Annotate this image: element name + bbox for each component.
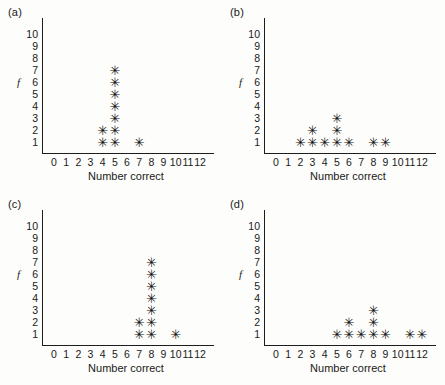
x-axis-tick-label: 2	[75, 157, 81, 168]
x-axis-title: Number correct	[88, 363, 164, 374]
x-axis-tick-label: 5	[334, 157, 340, 168]
y-axis-tick-label: 6	[254, 269, 260, 280]
y-axis-tick-label: 5	[254, 281, 260, 292]
x-axis-tick-label: 5	[112, 349, 118, 360]
y-axis-tick-label: 4	[254, 101, 260, 112]
x-axis-tick-label: 7	[358, 349, 364, 360]
plot-area: 12345678910f0123456789101112Number corre…	[264, 210, 432, 346]
y-axis-tick-label: 7	[32, 257, 38, 268]
x-axis-tick-label: 10	[170, 157, 182, 168]
x-axis-tick-label: 7	[136, 157, 142, 168]
y-axis-tick-label: 2	[254, 317, 260, 328]
y-axis-tick-label: 5	[32, 281, 38, 292]
x-axis-tick-label: 8	[148, 349, 154, 360]
x-axis-line	[264, 153, 436, 154]
y-axis-tick-label: 8	[254, 245, 260, 256]
y-axis-tick-label: 4	[32, 293, 38, 304]
y-axis-tick-label: 6	[32, 77, 38, 88]
y-axis-tick-label: 3	[32, 305, 38, 316]
data-point-marker: ✳	[344, 136, 355, 149]
y-axis-tick-label: 7	[254, 257, 260, 268]
y-axis-title: f	[17, 77, 20, 88]
plot-area: 12345678910f0123456789101112Number corre…	[264, 18, 432, 154]
x-axis-line	[42, 153, 214, 154]
x-axis-tick-label: 6	[124, 157, 130, 168]
y-axis-title: f	[239, 77, 242, 88]
figure-panel-grid: (a)12345678910f0123456789101112Number co…	[0, 0, 445, 385]
x-axis-tick-label: 3	[310, 157, 316, 168]
y-axis-tick-label: 3	[32, 113, 38, 124]
data-point-marker: ✳	[404, 328, 415, 341]
y-axis-tick-label: 1	[254, 329, 260, 340]
data-point-marker: ✳	[356, 328, 367, 341]
x-axis-title: Number correct	[310, 171, 386, 182]
y-axis-tick-label: 3	[254, 305, 260, 316]
x-axis-tick-label: 6	[346, 349, 352, 360]
data-point-marker: ✳	[97, 124, 108, 137]
y-axis-tick-label: 5	[254, 89, 260, 100]
y-axis-line	[264, 210, 265, 346]
chart-panel-a: (a)12345678910f0123456789101112Number co…	[0, 0, 222, 192]
x-axis-tick-label: 7	[358, 157, 364, 168]
x-axis-tick-label: 12	[194, 157, 206, 168]
x-axis-title: Number correct	[88, 171, 164, 182]
x-axis-tick-label: 4	[322, 349, 328, 360]
y-axis-line	[42, 210, 43, 346]
y-axis-tick-label: 3	[254, 113, 260, 124]
panel-label: (b)	[230, 6, 244, 18]
x-axis-tick-label: 10	[170, 349, 182, 360]
x-axis-tick-label: 5	[334, 349, 340, 360]
data-point-marker: ✳	[417, 328, 428, 341]
y-axis-tick-label: 1	[254, 137, 260, 148]
x-axis-tick-label: 0	[51, 157, 57, 168]
y-axis-tick-label: 10	[248, 29, 260, 40]
chart-panel-c: (c)12345678910f0123456789101112Number co…	[0, 192, 222, 385]
x-axis-tick-label: 9	[161, 157, 167, 168]
y-axis-line	[42, 18, 43, 154]
y-axis-tick-label: 7	[32, 65, 38, 76]
x-axis-tick-label: 8	[370, 157, 376, 168]
panel-label: (c)	[8, 198, 21, 210]
x-axis-tick-label: 11	[404, 349, 415, 360]
x-axis-tick-label: 4	[322, 157, 328, 168]
x-axis-tick-label: 9	[383, 349, 389, 360]
data-point-marker: ✳	[331, 112, 342, 125]
data-point-marker: ✳	[368, 136, 379, 149]
data-point-marker: ✳	[295, 136, 306, 149]
x-axis-tick-label: 6	[346, 157, 352, 168]
y-axis-tick-label: 5	[32, 89, 38, 100]
y-axis-tick-label: 1	[32, 137, 38, 148]
y-axis-title: f	[239, 269, 242, 280]
y-axis-tick-label: 7	[254, 65, 260, 76]
x-axis-tick-label: 10	[392, 349, 404, 360]
x-axis-tick-label: 0	[273, 157, 279, 168]
x-axis-tick-label: 12	[416, 157, 428, 168]
x-axis-tick-label: 9	[383, 157, 389, 168]
x-axis-tick-label: 0	[273, 349, 279, 360]
panel-label: (a)	[8, 6, 22, 18]
y-axis-tick-label: 9	[32, 41, 38, 52]
x-axis-tick-label: 11	[182, 157, 193, 168]
y-axis-title: f	[17, 269, 20, 280]
data-point-marker: ✳	[319, 136, 330, 149]
y-axis-tick-label: 6	[32, 269, 38, 280]
x-axis-tick-label: 1	[285, 349, 291, 360]
y-axis-tick-label: 4	[254, 293, 260, 304]
x-axis-tick-label: 11	[404, 157, 415, 168]
x-axis-tick-label: 12	[194, 349, 206, 360]
y-axis-tick-label: 2	[32, 125, 38, 136]
x-axis-title: Number correct	[310, 363, 386, 374]
data-point-marker: ✳	[134, 136, 145, 149]
x-axis-tick-label: 1	[285, 157, 291, 168]
x-axis-tick-label: 10	[392, 157, 404, 168]
x-axis-tick-label: 6	[124, 349, 130, 360]
x-axis-tick-label: 2	[75, 349, 81, 360]
data-point-marker: ✳	[344, 316, 355, 329]
plot-area: 12345678910f0123456789101112Number corre…	[42, 210, 210, 346]
y-axis-tick-label: 6	[254, 77, 260, 88]
data-point-marker: ✳	[380, 328, 391, 341]
data-point-marker: ✳	[380, 136, 391, 149]
x-axis-tick-label: 3	[88, 349, 94, 360]
y-axis-tick-label: 10	[26, 29, 38, 40]
chart-panel-b: (b)12345678910f0123456789101112Number co…	[222, 0, 445, 192]
